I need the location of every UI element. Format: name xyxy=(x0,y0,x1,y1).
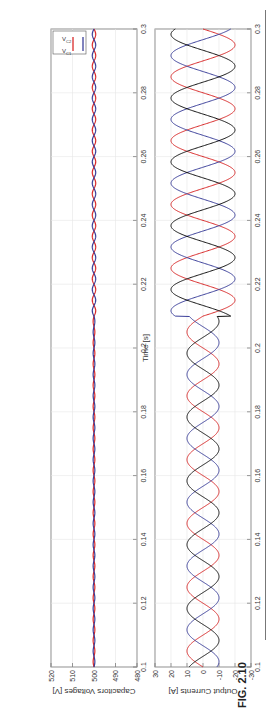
svg-text:480: 480 xyxy=(134,670,141,682)
svg-text:-10: -10 xyxy=(216,670,223,680)
y-axis-label: Output Currents [A] xyxy=(169,687,238,696)
y-axis-label: Capacitors Voltages [V] xyxy=(52,687,135,696)
svg-text:0.28: 0.28 xyxy=(140,86,147,100)
svg-text:30: 30 xyxy=(152,670,159,678)
svg-text:0.22: 0.22 xyxy=(140,277,147,291)
svg-text:0.18: 0.18 xyxy=(140,405,147,419)
figure-caption: FIG. 2.10 xyxy=(236,668,252,708)
svg-text:510: 510 xyxy=(69,670,76,682)
svg-text:520: 520 xyxy=(48,670,55,682)
svg-text:10: 10 xyxy=(184,670,191,678)
svg-text:0: 0 xyxy=(200,670,207,674)
svg-text:0.1: 0.1 xyxy=(140,662,147,672)
legend: VC1 VC2 xyxy=(53,31,86,56)
svg-text:0.26: 0.26 xyxy=(254,150,261,164)
svg-text:0.12: 0.12 xyxy=(254,596,261,610)
svg-text:0.12: 0.12 xyxy=(140,596,147,610)
svg-text:0.16: 0.16 xyxy=(140,469,147,483)
svg-text:0.22: 0.22 xyxy=(254,277,261,291)
svg-text:0.18: 0.18 xyxy=(254,405,261,419)
capacitor-voltages-panel: 0.10.120.140.160.180.20.220.240.260.280.… xyxy=(48,24,151,696)
svg-text:0.1: 0.1 xyxy=(254,662,261,672)
svg-text:0.24: 0.24 xyxy=(254,213,261,227)
svg-text:490: 490 xyxy=(112,670,119,682)
output-currents-panel: 0.10.120.140.160.180.20.220.240.260.280.… xyxy=(152,24,262,696)
svg-text:0.14: 0.14 xyxy=(254,532,261,546)
svg-text:20: 20 xyxy=(168,670,175,678)
svg-text:0.26: 0.26 xyxy=(140,150,147,164)
figure: 0.10.120.140.160.180.20.220.240.260.280.… xyxy=(0,0,275,721)
svg-text:0.3: 0.3 xyxy=(140,24,147,34)
svg-text:0.3: 0.3 xyxy=(254,24,261,34)
svg-text:0.16: 0.16 xyxy=(254,469,261,483)
svg-text:0.2: 0.2 xyxy=(254,343,261,353)
chart-svg: 0.10.120.140.160.180.20.220.240.260.280.… xyxy=(0,0,275,721)
svg-text:0.24: 0.24 xyxy=(140,213,147,227)
x-tick-labels: 0.10.120.140.160.180.20.220.240.260.280.… xyxy=(254,24,261,672)
figure-caption-text: FIG. 2.10 xyxy=(236,662,248,708)
svg-text:0.14: 0.14 xyxy=(140,532,147,546)
rotated-chart-canvas: 0.10.120.140.160.180.20.220.240.260.280.… xyxy=(0,0,275,721)
x-axis-label: Time [s] xyxy=(141,334,150,362)
svg-text:500: 500 xyxy=(91,670,98,682)
page-rule xyxy=(265,10,266,640)
y-tick-labels: 480490500510520 xyxy=(48,670,141,682)
svg-text:0.28: 0.28 xyxy=(254,86,261,100)
